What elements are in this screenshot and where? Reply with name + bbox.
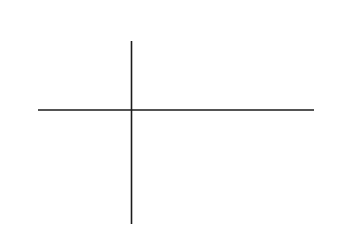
function-plot <box>0 0 352 247</box>
plot-figure <box>0 0 352 247</box>
